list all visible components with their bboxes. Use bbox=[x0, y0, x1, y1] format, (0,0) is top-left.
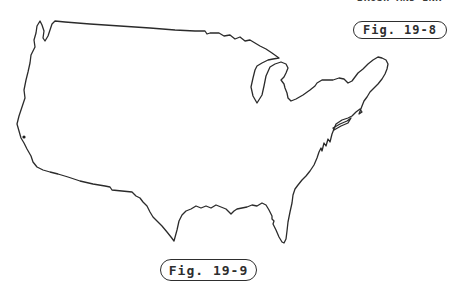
book-page: BRUSH AND INK Fig. 19-8 Fig. 19-9 bbox=[0, 0, 449, 286]
us-outline-map bbox=[0, 0, 449, 286]
figure-label-19-8-text: Fig. 19-8 bbox=[363, 23, 437, 37]
us-outline-path bbox=[17, 21, 388, 243]
figure-label-19-9: Fig. 19-9 bbox=[160, 259, 257, 281]
figure-label-19-9-text: Fig. 19-9 bbox=[169, 263, 248, 278]
figure-label-19-8: Fig. 19-8 bbox=[353, 21, 447, 39]
san-francisco-bay-mark bbox=[22, 135, 25, 138]
